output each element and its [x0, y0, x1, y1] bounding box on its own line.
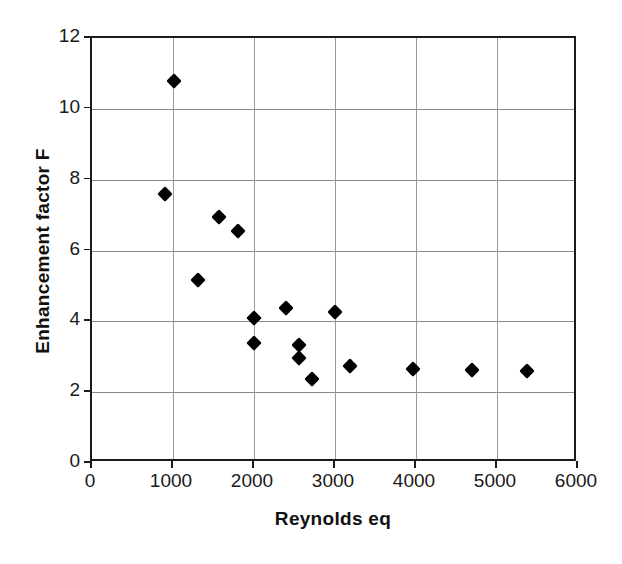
y-axis-tick-mark [84, 390, 90, 392]
y-axis-tick-mark [84, 107, 90, 109]
y-axis-tick-mark [84, 319, 90, 321]
y-axis-tick-mark [84, 178, 90, 180]
x-axis-title: Reynolds eq [90, 508, 576, 530]
x-axis-tick-mark [171, 461, 173, 468]
x-axis-tick-mark [576, 461, 578, 468]
x-axis-tick-mark [414, 461, 416, 468]
y-axis-tick-label: 12 [20, 26, 80, 45]
x-axis-tick-label: 2000 [207, 471, 297, 490]
x-axis-tick-mark [333, 461, 335, 468]
x-axis-tick-mark [90, 461, 92, 468]
axis-tick-layer: 0246810120100020003000400050006000 [0, 0, 622, 564]
x-axis-tick-label: 4000 [369, 471, 459, 490]
x-axis-tick-mark [252, 461, 254, 468]
x-axis-tick-label: 1000 [126, 471, 216, 490]
x-axis-tick-mark [495, 461, 497, 468]
y-axis-tick-mark [84, 36, 90, 38]
x-axis-tick-label: 5000 [450, 471, 540, 490]
x-axis-tick-label: 3000 [288, 471, 378, 490]
y-axis-title: Enhancement factor F [32, 101, 54, 401]
y-axis-tick-mark [84, 249, 90, 251]
x-axis-tick-label: 0 [45, 471, 135, 490]
y-axis-tick-label: 0 [20, 451, 80, 470]
x-axis-tick-label: 6000 [531, 471, 621, 490]
scatter-chart-figure: 0246810120100020003000400050006000 Reyno… [0, 0, 622, 564]
